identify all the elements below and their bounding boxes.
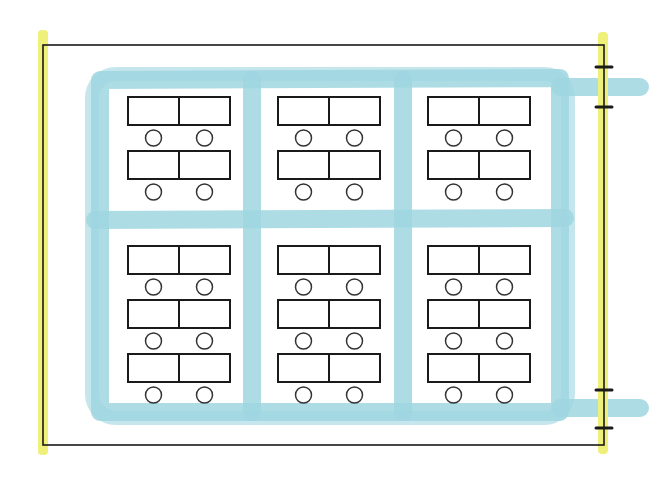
chair	[347, 279, 363, 295]
desk	[278, 300, 329, 328]
chair	[497, 387, 513, 403]
desk	[329, 354, 380, 382]
desk	[329, 151, 380, 179]
desk	[278, 246, 329, 274]
group-top-left	[128, 97, 230, 200]
chair	[347, 130, 363, 146]
chair	[146, 184, 162, 200]
group-bottom-middle	[278, 246, 380, 403]
desk	[479, 300, 530, 328]
chair	[146, 279, 162, 295]
chair	[347, 184, 363, 200]
desk	[278, 354, 329, 382]
chair	[296, 387, 312, 403]
chair	[446, 279, 462, 295]
chair	[347, 387, 363, 403]
chair	[446, 130, 462, 146]
aisle-middle	[95, 218, 565, 220]
chair	[497, 184, 513, 200]
desk	[329, 300, 380, 328]
chair	[197, 279, 213, 295]
chair	[197, 333, 213, 349]
group-top-right	[428, 97, 530, 200]
desk	[428, 97, 479, 125]
desk	[128, 246, 179, 274]
chair	[497, 279, 513, 295]
desk	[479, 97, 530, 125]
chair	[497, 130, 513, 146]
chair	[497, 333, 513, 349]
desk	[428, 354, 479, 382]
desk	[428, 300, 479, 328]
desk-groups	[128, 97, 530, 403]
chair	[197, 130, 213, 146]
chair	[296, 184, 312, 200]
group-bottom-left	[128, 246, 230, 403]
desk	[278, 151, 329, 179]
desk	[428, 151, 479, 179]
chair	[347, 333, 363, 349]
group-bottom-right	[428, 246, 530, 403]
desk	[479, 246, 530, 274]
chair	[197, 184, 213, 200]
desk	[179, 300, 230, 328]
chair	[146, 130, 162, 146]
chair	[446, 184, 462, 200]
chair	[296, 279, 312, 295]
desk	[278, 97, 329, 125]
desk	[179, 97, 230, 125]
chair	[446, 333, 462, 349]
desk	[329, 97, 380, 125]
desk	[128, 300, 179, 328]
group-top-middle	[278, 97, 380, 200]
walls	[38, 30, 608, 455]
desk	[128, 354, 179, 382]
desk	[179, 151, 230, 179]
desk	[428, 246, 479, 274]
desk	[479, 354, 530, 382]
desk	[329, 246, 380, 274]
floor-plan	[0, 0, 657, 484]
desk	[128, 151, 179, 179]
chair	[296, 130, 312, 146]
desk	[479, 151, 530, 179]
chair	[446, 387, 462, 403]
chair	[296, 333, 312, 349]
chair	[146, 387, 162, 403]
desk	[179, 354, 230, 382]
chair	[197, 387, 213, 403]
chair	[146, 333, 162, 349]
desk	[128, 97, 179, 125]
desk	[179, 246, 230, 274]
